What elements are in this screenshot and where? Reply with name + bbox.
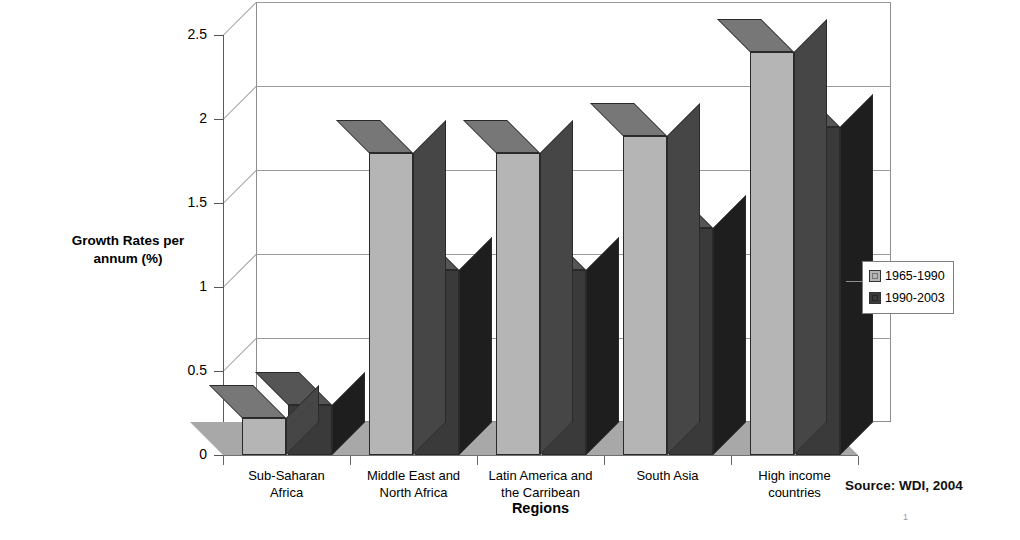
depth-edge: [223, 2, 257, 36]
y-axis-tick-mark: [214, 35, 223, 36]
legend-item: 1990-2003: [869, 289, 945, 308]
bar-front-face: [750, 52, 794, 455]
x-axis-line: [223, 455, 858, 456]
y-axis-title: Growth Rates per annum (%): [62, 232, 194, 268]
y-axis-tick-label: 1: [145, 278, 207, 294]
bar-side-face: [413, 120, 446, 455]
bar-side-face: [586, 237, 619, 455]
x-axis-tick-mark: [731, 456, 732, 465]
x-axis-tick-mark: [604, 456, 605, 465]
y-axis-tick-mark: [214, 371, 223, 372]
y-axis-tick-mark: [214, 119, 223, 120]
legend-item: 1965-1990: [869, 267, 945, 286]
bar-side-face: [540, 120, 573, 455]
y-axis-tick-label: 0.5: [145, 362, 207, 378]
legend-swatch-icon: [869, 292, 881, 304]
y-axis-tick-mark: [214, 203, 223, 204]
bar-1965-1990: [623, 103, 667, 455]
source-note: Source: WDI, 2004: [845, 478, 963, 493]
depth-edge: [223, 170, 257, 204]
legend-label: 1965-1990: [885, 267, 945, 286]
y-axis-tick-label: 0: [145, 446, 207, 462]
bar-side-face: [667, 103, 700, 455]
y-axis-tick-label: 2: [145, 110, 207, 126]
bar-side-face: [713, 195, 746, 455]
y-axis-tick-mark: [214, 287, 223, 288]
bar-1965-1990: [242, 385, 286, 455]
depth-edge: [223, 338, 257, 372]
gridline: [256, 2, 891, 3]
depth-edge: [223, 254, 257, 288]
legend-leader-line: [846, 281, 862, 282]
x-axis-title: Regions: [441, 500, 641, 516]
bar-side-face: [794, 19, 827, 455]
x-axis-tick-mark: [858, 456, 859, 465]
page-number: 1: [903, 512, 908, 522]
bar-top-face: [209, 385, 286, 418]
legend-label: 1990-2003: [885, 289, 945, 308]
bar-front-face: [623, 136, 667, 455]
legend: 1965-19901990-2003: [862, 261, 954, 314]
chart-figure: Growth Rates per annum (%) 00.511.522.5 …: [0, 0, 1020, 540]
bar-front-face: [242, 418, 286, 455]
bar-side-face: [459, 237, 492, 455]
bar-1965-1990: [496, 120, 540, 455]
x-axis-tick-mark: [350, 456, 351, 465]
bar-1965-1990: [369, 120, 413, 455]
y-axis-tick-mark: [214, 455, 223, 456]
x-axis-tick-mark: [477, 456, 478, 465]
depth-edge: [223, 86, 257, 120]
x-axis-tick-mark: [223, 456, 224, 465]
y-axis-tick-label: 1.5: [145, 194, 207, 210]
legend-swatch-icon: [869, 270, 881, 282]
y-axis-tick-label: 2.5: [145, 26, 207, 42]
bar-front-face: [496, 153, 540, 455]
bar-front-face: [369, 153, 413, 455]
bar-1965-1990: [750, 19, 794, 455]
